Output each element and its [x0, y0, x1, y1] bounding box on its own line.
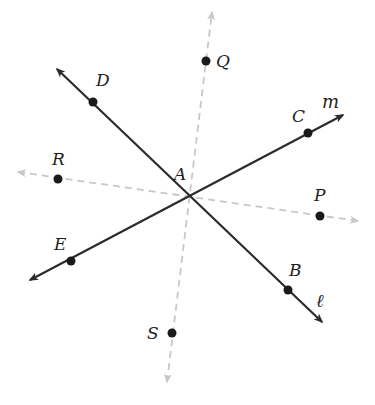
label-d: D — [95, 70, 110, 90]
label-line-m: m — [322, 91, 339, 112]
label-e: E — [53, 234, 67, 254]
point-b — [284, 286, 293, 295]
point-p — [316, 212, 325, 221]
point-d — [89, 98, 98, 107]
label-r: R — [51, 149, 65, 169]
label-line-l: ℓ — [316, 290, 324, 311]
label-s: S — [147, 323, 159, 343]
label-a: A — [172, 164, 186, 184]
label-q: Q — [216, 51, 230, 71]
point-q — [202, 57, 211, 66]
geometry-diagram: Q D C R A P E B S m ℓ — [0, 0, 375, 405]
label-c: C — [292, 106, 305, 126]
point-r — [54, 175, 63, 184]
point-s — [168, 329, 177, 338]
line-m — [30, 115, 343, 280]
label-p: P — [313, 185, 326, 205]
label-b: B — [288, 260, 302, 280]
point-c — [304, 129, 313, 138]
point-e — [67, 257, 76, 266]
